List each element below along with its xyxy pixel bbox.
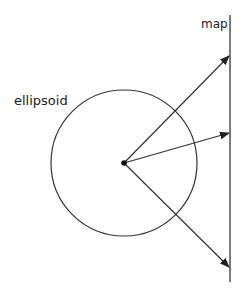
projection-center-point xyxy=(121,160,127,166)
projection-arrow-upper xyxy=(124,56,229,163)
projection-arrow-middle xyxy=(124,133,229,163)
projection-arrow-lower xyxy=(124,163,229,267)
ellipsoid-map-projection-diagram: map ellipsoid xyxy=(0,0,243,288)
ellipsoid-label: ellipsoid xyxy=(14,94,68,107)
diagram-drawing xyxy=(0,0,243,288)
map-label: map xyxy=(201,18,228,30)
